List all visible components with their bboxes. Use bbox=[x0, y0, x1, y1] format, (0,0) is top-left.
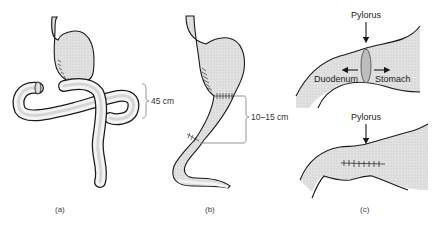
measurement-label-b: 10–15 cm bbox=[251, 112, 288, 122]
incision-ellipse bbox=[361, 49, 371, 83]
efferent-limb-a bbox=[64, 84, 101, 182]
panel-a: 45 cm (a) bbox=[19, 17, 175, 214]
bracket-a bbox=[142, 84, 149, 118]
pylorus-incision-diagram: Pylorus Duodenum Stomach bbox=[296, 10, 420, 108]
stomach-remnant-a bbox=[52, 17, 94, 82]
stomach-b bbox=[173, 16, 245, 188]
pylorus-label-top: Pylorus bbox=[351, 10, 382, 20]
surgical-diagram: 45 cm (a) 10–15 cm (b) bbox=[0, 0, 446, 226]
panel-label-c: (c) bbox=[360, 205, 370, 214]
panel-c: Pylorus Duodenum Stomach Pylorus (c) bbox=[296, 10, 428, 214]
panel-label-b: (b) bbox=[205, 205, 215, 214]
panel-b: 10–15 cm (b) bbox=[173, 16, 289, 214]
pylorus-closure-diagram: Pylorus bbox=[300, 112, 428, 198]
pylorus-label-bottom: Pylorus bbox=[351, 112, 382, 122]
measurement-label-a: 45 cm bbox=[151, 96, 174, 106]
panel-label-a: (a) bbox=[55, 205, 65, 214]
stomach-label: Stomach bbox=[375, 74, 411, 84]
duodenum-label: Duodenum bbox=[314, 74, 358, 84]
